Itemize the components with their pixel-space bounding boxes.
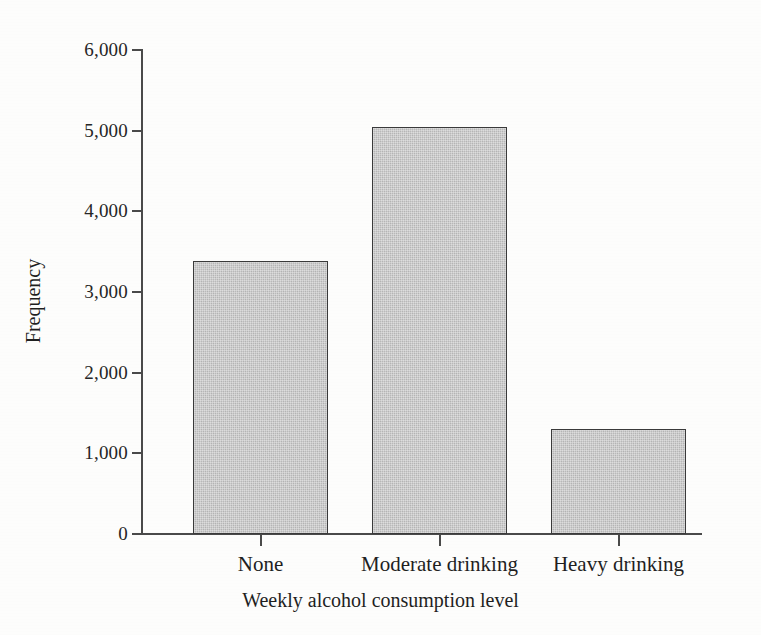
y-axis-tick-label-wrap: 3,000 xyxy=(36,282,128,301)
y-axis-tick-label: 1,000 xyxy=(42,443,128,462)
x-axis-tick xyxy=(618,535,620,546)
y-axis-tick xyxy=(132,372,142,374)
y-axis-tick xyxy=(132,452,142,454)
y-axis-tick xyxy=(132,533,142,535)
y-axis-tick xyxy=(132,210,142,212)
y-axis-tick-label-wrap: 2,000 xyxy=(36,363,128,382)
y-axis-tick-label-wrap: 1,000 xyxy=(36,443,128,462)
y-axis-tick-label: 5,000 xyxy=(42,121,128,140)
bar-heavy-drinking xyxy=(551,429,686,534)
x-axis-tick xyxy=(439,535,441,546)
y-axis-tick-label: 6,000 xyxy=(42,40,128,59)
y-axis-tick xyxy=(132,49,142,51)
x-axis-title: Weekly alcohol consumption level xyxy=(0,588,761,612)
y-axis-tick xyxy=(132,291,142,293)
bar-moderate-drinking xyxy=(372,127,507,534)
y-axis-tick-label-wrap: 4,000 xyxy=(36,201,128,220)
y-axis-title: Frequency xyxy=(22,221,44,381)
y-axis-tick-label: 3,000 xyxy=(42,282,128,301)
bar-chart-figure: 0 1,000 2,000 3,000 4,000 5,000 6,000 No… xyxy=(0,0,761,635)
y-axis-tick-label: 2,000 xyxy=(42,363,128,382)
y-axis-tick xyxy=(132,130,142,132)
x-axis-category-label: Heavy drinking xyxy=(469,551,761,577)
y-axis-tick-label: 0 xyxy=(42,524,128,543)
y-axis-tick-label-wrap: 5,000 xyxy=(36,121,128,140)
y-axis-tick-label-wrap: 6,000 xyxy=(36,40,128,59)
y-axis-tick-label-wrap: 0 xyxy=(36,524,128,543)
bar-none xyxy=(193,261,328,534)
y-axis-tick-label: 4,000 xyxy=(42,201,128,220)
x-axis-tick xyxy=(260,535,262,546)
